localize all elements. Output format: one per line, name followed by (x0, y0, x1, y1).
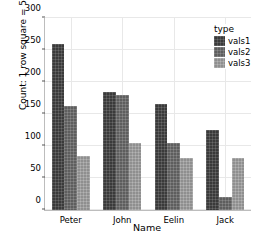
y-tick-label: 50 (30, 163, 41, 173)
y-tick-label: 100 (25, 131, 41, 141)
bar-group (103, 18, 141, 210)
bar (64, 106, 77, 210)
bar (232, 158, 245, 210)
legend-swatch (214, 58, 225, 68)
legend-swatch (214, 36, 225, 46)
bar-group (52, 18, 90, 210)
y-tick-label: 300 (25, 3, 41, 13)
bar (52, 44, 65, 210)
y-tick-label: 0 (36, 195, 41, 205)
y-tick-mark (42, 113, 45, 114)
legend-item: vals1 (214, 36, 250, 46)
bar (180, 158, 193, 210)
bar (206, 130, 219, 210)
y-tick-label: 250 (25, 35, 41, 45)
y-tick-mark (42, 145, 45, 146)
y-tick-mark (42, 49, 45, 50)
y-tick-mark (42, 177, 45, 178)
bar (103, 92, 116, 210)
bar (155, 104, 168, 210)
y-tick-mark (42, 81, 45, 82)
y-tick-mark (42, 209, 45, 210)
bar (219, 197, 232, 210)
y-tick-label: 150 (25, 99, 41, 109)
legend-item: vals3 (214, 58, 250, 68)
legend-label: vals2 (228, 47, 250, 57)
legend-label: vals3 (228, 58, 250, 68)
y-tick-label: 200 (25, 67, 41, 77)
bar-group (155, 18, 193, 210)
bar-chart-figure: Count: 1 row square = 5 0501001502002503… (0, 0, 279, 241)
legend: type vals1vals2vals3 (214, 24, 250, 69)
bar (129, 143, 142, 210)
legend-title: type (214, 24, 250, 34)
bar (77, 156, 90, 210)
y-tick-mark (42, 17, 45, 18)
bar (167, 143, 180, 210)
x-axis-label: Name (44, 222, 250, 233)
legend-label: vals1 (228, 36, 250, 46)
legend-item: vals2 (214, 47, 250, 57)
legend-swatch (214, 47, 225, 57)
bar (116, 95, 129, 210)
legend-items: vals1vals2vals3 (214, 36, 250, 68)
